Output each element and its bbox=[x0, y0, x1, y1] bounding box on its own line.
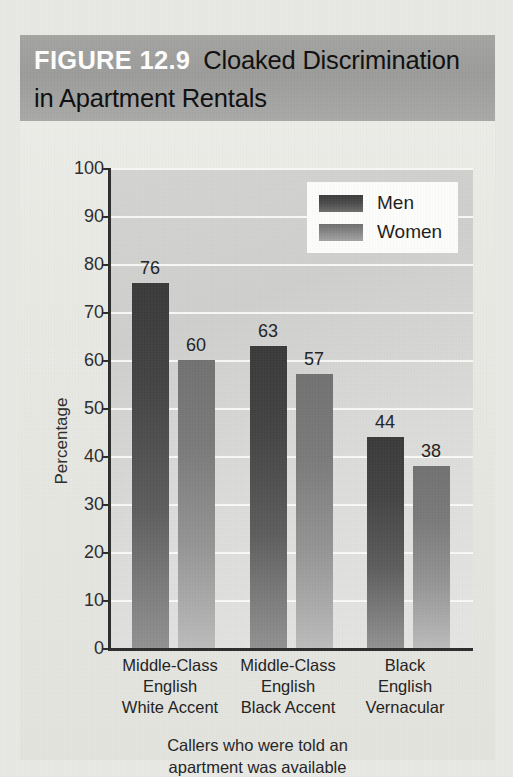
y-axis-tick-mark bbox=[103, 264, 111, 266]
gridline bbox=[111, 168, 473, 170]
y-axis-tick-label: 50 bbox=[40, 398, 104, 419]
legend-item-women: Women bbox=[319, 221, 442, 243]
figure-title: FIGURE 12.9Cloaked Discrimination in Apa… bbox=[34, 41, 485, 117]
y-axis-tick-mark bbox=[103, 648, 111, 650]
chart-region: Percentage 1009080706050403020100 766063… bbox=[20, 121, 495, 760]
bar-value-label: 63 bbox=[242, 321, 295, 342]
category-label-line: English bbox=[345, 676, 465, 697]
category-label-line: Black Accent bbox=[228, 697, 348, 718]
y-axis-tick-mark bbox=[103, 360, 111, 362]
caption-line-1: Callers who were told an bbox=[20, 734, 495, 756]
y-axis-tick-mark bbox=[103, 312, 111, 314]
category-label-line: Middle-Class bbox=[228, 655, 348, 676]
x-axis-category-labels: Middle-ClassEnglishWhite AccentMiddle-Cl… bbox=[108, 655, 470, 727]
figure-title-band: FIGURE 12.9Cloaked Discrimination in Apa… bbox=[20, 35, 495, 121]
y-axis-tick-label: 100 bbox=[40, 158, 104, 179]
figure-caption: Callers who were told an apartment was a… bbox=[20, 734, 495, 777]
category-label-line: Middle-Class bbox=[110, 655, 230, 676]
bar-men bbox=[250, 346, 287, 648]
bar-value-label: 57 bbox=[288, 349, 341, 370]
legend-item-men: Men bbox=[319, 192, 442, 214]
y-axis-tick-label: 40 bbox=[40, 446, 104, 467]
bar-value-label: 60 bbox=[170, 335, 223, 356]
bar-men bbox=[132, 283, 169, 648]
category-label-line: English bbox=[228, 676, 348, 697]
y-axis-tick-mark bbox=[103, 600, 111, 602]
y-axis-tick-mark bbox=[103, 216, 111, 218]
bar-value-label: 38 bbox=[405, 441, 458, 462]
legend-label-men: Men bbox=[377, 192, 414, 214]
x-axis-category-label: BlackEnglishVernacular bbox=[345, 655, 465, 718]
y-axis-tick-label: 10 bbox=[40, 590, 104, 611]
bar-men bbox=[367, 437, 404, 648]
y-axis-tick-mark bbox=[103, 456, 111, 458]
y-axis-tick-label: 0 bbox=[40, 638, 104, 659]
bar-women bbox=[413, 466, 450, 648]
y-axis-tick-label: 80 bbox=[40, 254, 104, 275]
bar-women bbox=[178, 360, 215, 648]
bar-value-label: 44 bbox=[359, 412, 412, 433]
chart-legend: Men Women bbox=[307, 182, 458, 253]
x-axis-category-label: Middle-ClassEnglishBlack Accent bbox=[228, 655, 348, 718]
plot-area: 766063574438 Men Women bbox=[108, 168, 473, 651]
caption-line-2: apartment was available bbox=[20, 756, 495, 777]
category-label-line: Vernacular bbox=[345, 697, 465, 718]
bar-women bbox=[296, 374, 333, 648]
y-axis-tick-mark bbox=[103, 408, 111, 410]
y-axis-tick-label: 20 bbox=[40, 542, 104, 563]
y-axis-tick-label: 90 bbox=[40, 206, 104, 227]
y-axis-tick-labels: 1009080706050403020100 bbox=[40, 168, 104, 648]
category-label-line: English bbox=[110, 676, 230, 697]
y-axis-tick-label: 60 bbox=[40, 350, 104, 371]
legend-label-women: Women bbox=[377, 221, 442, 243]
y-axis-tick-label: 30 bbox=[40, 494, 104, 515]
category-label-line: White Accent bbox=[110, 697, 230, 718]
y-axis-tick-label: 70 bbox=[40, 302, 104, 323]
figure-card: FIGURE 12.9Cloaked Discrimination in Apa… bbox=[20, 35, 495, 760]
y-axis-tick-mark bbox=[103, 168, 111, 170]
x-axis-category-label: Middle-ClassEnglishWhite Accent bbox=[110, 655, 230, 718]
legend-swatch-men-icon bbox=[319, 195, 363, 212]
bar-value-label: 76 bbox=[124, 258, 177, 279]
category-label-line: Black bbox=[345, 655, 465, 676]
y-axis-tick-mark bbox=[103, 504, 111, 506]
figure-number-label: FIGURE 12.9 bbox=[34, 46, 190, 74]
legend-swatch-women-icon bbox=[319, 224, 363, 241]
y-axis-tick-mark bbox=[103, 552, 111, 554]
